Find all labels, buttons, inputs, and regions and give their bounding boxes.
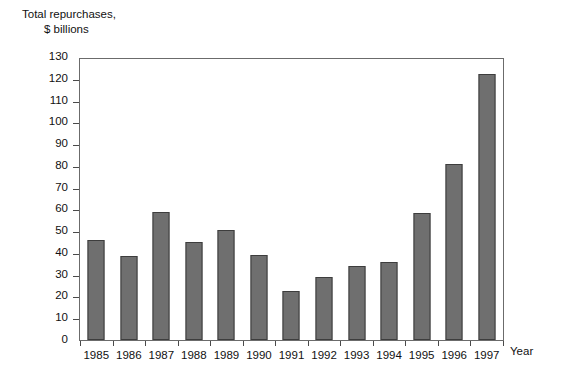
bar[interactable] — [316, 277, 333, 340]
x-axis-tick-mark — [80, 341, 81, 346]
y-axis-tick-mark — [73, 123, 79, 124]
x-axis-tick-mark — [178, 341, 179, 346]
bar[interactable] — [250, 255, 267, 340]
bar[interactable] — [88, 240, 105, 340]
bar-slot — [308, 59, 341, 340]
bar-slot — [438, 59, 471, 340]
y-axis: 1301201101009080706050403020100 — [0, 0, 79, 382]
y-axis-tick-mark — [73, 232, 79, 233]
y-axis-tick-mark — [73, 102, 79, 103]
x-axis-tick-label: 1995 — [409, 349, 435, 361]
x-axis-tick-mark — [405, 341, 406, 346]
y-axis-tick-label: 60 — [55, 202, 68, 214]
x-axis-title: Year — [510, 345, 533, 357]
x-axis-tick-label: 1997 — [474, 349, 500, 361]
bar-slot — [80, 59, 113, 340]
bar-slot — [340, 59, 373, 340]
x-axis: 1985198619871988198919901991199219931994… — [80, 341, 503, 381]
y-axis-tick-label: 50 — [55, 224, 68, 236]
x-axis-tick-mark — [275, 341, 276, 346]
y-axis-tick-mark — [73, 80, 79, 81]
y-axis-tick-label: 90 — [55, 137, 68, 149]
x-axis-tick-label: 1987 — [149, 349, 175, 361]
x-axis-tick-label: 1989 — [214, 349, 240, 361]
y-axis-tick-label: 110 — [50, 94, 68, 106]
bar[interactable] — [413, 213, 430, 340]
bar[interactable] — [120, 256, 137, 340]
bar[interactable] — [348, 266, 365, 340]
bar[interactable] — [478, 74, 495, 340]
bar[interactable] — [153, 212, 170, 340]
bar[interactable] — [283, 291, 300, 340]
x-axis-tick-label: 1992 — [311, 349, 337, 361]
bar-chart-figure: Total repurchases, $ billions 1301201101… — [0, 0, 564, 382]
y-axis-tick-label: 40 — [55, 246, 68, 258]
x-axis-tick-label: 1986 — [116, 349, 142, 361]
y-axis-tick-mark — [73, 319, 79, 320]
y-axis-tick-mark — [73, 167, 79, 168]
bar[interactable] — [218, 230, 235, 340]
x-axis-tick-mark — [308, 341, 309, 346]
bar-slot — [145, 59, 178, 340]
x-axis-tick-mark — [470, 341, 471, 346]
x-axis-tick-label: 1993 — [344, 349, 370, 361]
y-axis-tick-mark — [73, 276, 79, 277]
y-axis-tick-mark — [73, 254, 79, 255]
bar-slot — [373, 59, 406, 340]
y-axis-tick-label: 120 — [49, 72, 68, 84]
bar-slot — [113, 59, 146, 340]
bar[interactable] — [185, 242, 202, 340]
bar-slot — [210, 59, 243, 340]
x-axis-tick-mark — [145, 341, 146, 346]
bar-slot — [405, 59, 438, 340]
x-axis-tick-mark — [210, 341, 211, 346]
bar-series — [80, 59, 503, 340]
y-axis-tick-label: 80 — [55, 159, 68, 171]
y-axis-tick-label: 100 — [49, 115, 68, 127]
y-axis-tick-label: 20 — [55, 289, 68, 301]
bar[interactable] — [446, 164, 463, 340]
bar[interactable] — [381, 262, 398, 340]
y-axis-tick-label: 0 — [62, 333, 68, 345]
x-axis-tick-label: 1996 — [441, 349, 467, 361]
x-axis-tick-mark — [373, 341, 374, 346]
x-axis-tick-label: 1990 — [246, 349, 272, 361]
y-axis-tick-label: 10 — [55, 311, 68, 323]
y-axis-tick-label: 130 — [49, 50, 68, 62]
x-axis-tick-label: 1991 — [279, 349, 305, 361]
y-axis-tick-mark — [73, 297, 79, 298]
x-axis-tick-mark — [340, 341, 341, 346]
x-axis-tick-mark — [113, 341, 114, 346]
x-axis-tick-mark — [243, 341, 244, 346]
bar-slot — [178, 59, 211, 340]
bar-slot — [243, 59, 276, 340]
y-axis-tick-label: 30 — [55, 268, 68, 280]
x-axis-tick-mark — [438, 341, 439, 346]
bar-slot — [275, 59, 308, 340]
y-axis-tick-label: 70 — [55, 181, 68, 193]
x-axis-tick-label: 1985 — [83, 349, 109, 361]
x-axis-tick-label: 1988 — [181, 349, 207, 361]
y-axis-tick-mark — [73, 189, 79, 190]
bar-slot — [470, 59, 503, 340]
x-axis-tick-mark — [503, 341, 504, 346]
y-axis-tick-mark — [73, 145, 79, 146]
y-axis-tick-mark — [73, 210, 79, 211]
x-axis-tick-label: 1994 — [376, 349, 402, 361]
